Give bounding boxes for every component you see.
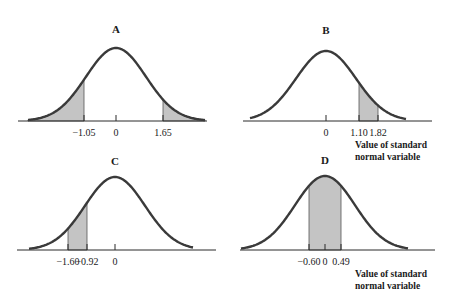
panel-title: C <box>111 155 119 167</box>
tick-label: −0.92 <box>75 256 98 267</box>
tick-label: 0 <box>323 256 328 267</box>
shaded-region <box>309 176 341 250</box>
tick-label: 0 <box>114 127 119 138</box>
panel-c: C −1.60−0.920 <box>17 155 216 267</box>
shaded-region <box>28 80 84 121</box>
tick-label: −0.60 <box>297 256 320 267</box>
panel-title: A <box>112 23 120 35</box>
panel-title: B <box>322 24 330 36</box>
tick-label: 0 <box>113 256 118 267</box>
panel-b: B Value of standard normal variable 01.1… <box>243 24 432 162</box>
axis-caption-line1: Value of standard <box>355 140 428 150</box>
normal-curve <box>29 177 193 249</box>
normal-curve <box>250 51 406 119</box>
tick-label: 1.65 <box>154 127 172 138</box>
axis-caption-line2: normal variable <box>355 152 420 162</box>
axis-caption-line1: Value of standard <box>355 269 428 279</box>
panel-title: D <box>321 154 329 166</box>
tick-label: 1.82 <box>369 127 387 138</box>
tick-label: 0 <box>324 127 329 138</box>
normal-distribution-figure: A −1.0501.65 B Value of standard normal … <box>0 0 455 300</box>
panel-a: A −1.0501.65 <box>18 23 207 138</box>
normal-curve <box>28 48 205 120</box>
tick-label: 0.49 <box>332 256 350 267</box>
tick-label: 1.10 <box>350 127 368 138</box>
axis-caption-line2: normal variable <box>355 281 420 291</box>
tick-label: −1.05 <box>72 127 95 138</box>
shaded-region <box>163 100 205 121</box>
panel-d: D Value of standard normal variable −0.6… <box>240 154 435 291</box>
